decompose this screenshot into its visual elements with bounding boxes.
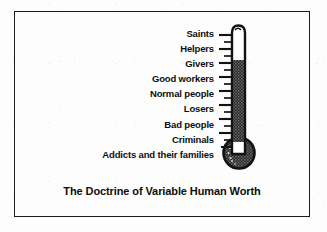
figure-caption: The Doctrine of Variable Human Worth: [15, 185, 309, 197]
tier-label-addicts: Addicts and their families: [25, 147, 214, 162]
tier-label-givers: Givers: [25, 56, 214, 71]
tier-label-bad-people: Bad people: [25, 117, 214, 132]
scanned-page: Saints Helpers Givers Good workers Norma…: [0, 0, 327, 232]
thermometer-mercury: [232, 60, 245, 156]
figure-border-box: Saints Helpers Givers Good workers Norma…: [14, 11, 310, 217]
tier-label-saints: Saints: [25, 26, 214, 41]
thermometer-icon: [211, 24, 263, 184]
tier-label-helpers: Helpers: [25, 41, 214, 56]
tier-label-good-workers: Good workers: [25, 71, 214, 86]
tier-label-losers: Losers: [25, 101, 214, 116]
tier-label-criminals: Criminals: [25, 132, 214, 147]
tier-label-column: Saints Helpers Givers Good workers Norma…: [25, 26, 214, 162]
tier-label-normal-people: Normal people: [25, 86, 214, 101]
